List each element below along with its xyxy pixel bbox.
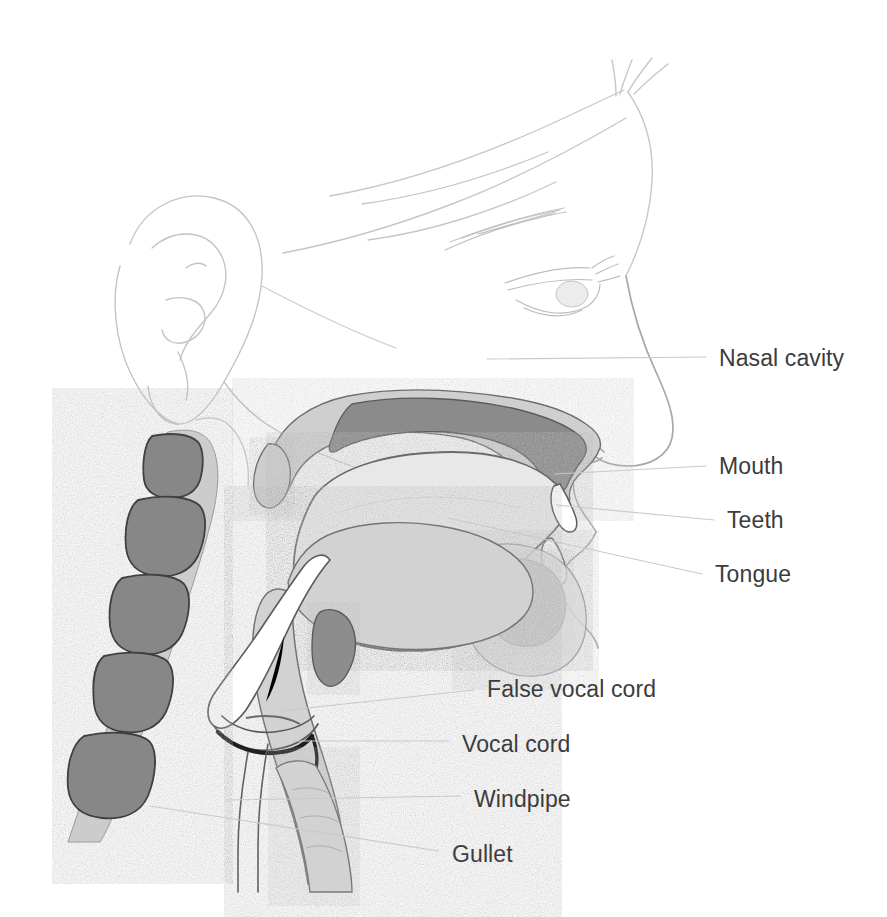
diagram-canvas: Nasal cavity Mouth Teeth Tongue False vo… [0,0,887,917]
label-vocal-cord: Vocal cord [462,733,570,756]
label-gullet: Gullet [452,843,513,866]
label-tongue: Tongue [715,563,791,586]
label-teeth: Teeth [727,509,784,532]
label-layer: Nasal cavity Mouth Teeth Tongue False vo… [0,0,887,917]
label-false-vocal-cord: False vocal cord [487,678,656,701]
label-windpipe: Windpipe [474,788,571,811]
label-nasal-cavity: Nasal cavity [719,347,844,370]
label-mouth: Mouth [719,455,783,478]
